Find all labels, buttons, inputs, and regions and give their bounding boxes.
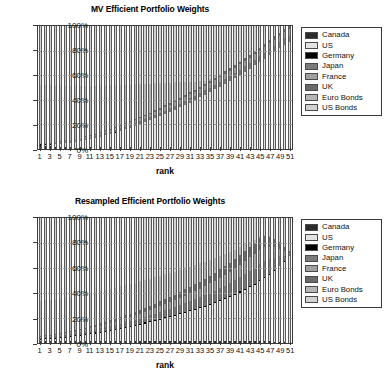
stacked-bar[interactable] bbox=[248, 26, 251, 149]
stacked-bar[interactable] bbox=[228, 218, 231, 343]
stacked-bar[interactable] bbox=[233, 218, 236, 343]
stacked-bar[interactable] bbox=[64, 26, 67, 149]
stacked-bar[interactable] bbox=[268, 218, 271, 343]
stacked-bar[interactable] bbox=[134, 218, 137, 343]
stacked-bar[interactable] bbox=[109, 218, 112, 343]
stacked-bar[interactable] bbox=[183, 26, 186, 149]
stacked-bar[interactable] bbox=[263, 26, 266, 149]
stacked-bar[interactable] bbox=[39, 218, 42, 343]
legend-item-france[interactable]: France bbox=[305, 264, 377, 274]
stacked-bar[interactable] bbox=[54, 218, 57, 343]
stacked-bar[interactable] bbox=[238, 218, 241, 343]
stacked-bar[interactable] bbox=[288, 218, 291, 343]
stacked-bar[interactable] bbox=[278, 26, 281, 149]
stacked-bar[interactable] bbox=[138, 218, 141, 343]
stacked-bar[interactable] bbox=[74, 26, 77, 149]
stacked-bar[interactable] bbox=[213, 218, 216, 343]
stacked-bar[interactable] bbox=[44, 218, 47, 343]
legend-item-uk[interactable]: UK bbox=[305, 274, 377, 284]
legend-item-france[interactable]: France bbox=[305, 72, 377, 82]
stacked-bar[interactable] bbox=[208, 218, 211, 343]
legend-item-us[interactable]: US bbox=[305, 40, 377, 50]
stacked-bar[interactable] bbox=[193, 218, 196, 343]
stacked-bar[interactable] bbox=[233, 26, 236, 149]
stacked-bar[interactable] bbox=[283, 218, 286, 343]
stacked-bar[interactable] bbox=[153, 26, 156, 149]
legend-item-japan[interactable]: Japan bbox=[305, 61, 377, 71]
stacked-bar[interactable] bbox=[138, 26, 141, 149]
stacked-bar[interactable] bbox=[94, 218, 97, 343]
stacked-bar[interactable] bbox=[243, 218, 246, 343]
stacked-bar[interactable] bbox=[248, 218, 251, 343]
stacked-bar[interactable] bbox=[84, 218, 87, 343]
stacked-bar[interactable] bbox=[198, 218, 201, 343]
stacked-bar[interactable] bbox=[148, 218, 151, 343]
stacked-bar[interactable] bbox=[39, 26, 42, 149]
stacked-bar[interactable] bbox=[223, 218, 226, 343]
stacked-bar[interactable] bbox=[69, 218, 72, 343]
legend-item-canada[interactable]: Canada bbox=[305, 222, 377, 232]
stacked-bar[interactable] bbox=[119, 218, 122, 343]
stacked-bar[interactable] bbox=[69, 26, 72, 149]
stacked-bar[interactable] bbox=[158, 26, 161, 149]
stacked-bar[interactable] bbox=[54, 26, 57, 149]
stacked-bar[interactable] bbox=[168, 218, 171, 343]
stacked-bar[interactable] bbox=[258, 218, 261, 343]
stacked-bar[interactable] bbox=[79, 218, 82, 343]
stacked-bar[interactable] bbox=[218, 218, 221, 343]
legend-item-euro-bonds[interactable]: Euro Bonds bbox=[305, 92, 377, 102]
stacked-bar[interactable] bbox=[158, 218, 161, 343]
stacked-bar[interactable] bbox=[253, 26, 256, 149]
stacked-bar[interactable] bbox=[213, 26, 216, 149]
stacked-bar[interactable] bbox=[79, 26, 82, 149]
stacked-bar[interactable] bbox=[283, 26, 286, 149]
stacked-bar[interactable] bbox=[273, 218, 276, 343]
stacked-bar[interactable] bbox=[99, 26, 102, 149]
stacked-bar[interactable] bbox=[258, 26, 261, 149]
stacked-bar[interactable] bbox=[114, 26, 117, 149]
stacked-bar[interactable] bbox=[193, 26, 196, 149]
stacked-bar[interactable] bbox=[49, 218, 52, 343]
stacked-bar[interactable] bbox=[89, 218, 92, 343]
stacked-bar[interactable] bbox=[49, 26, 52, 149]
stacked-bar[interactable] bbox=[203, 218, 206, 343]
stacked-bar[interactable] bbox=[163, 218, 166, 343]
stacked-bar[interactable] bbox=[268, 26, 271, 149]
stacked-bar[interactable] bbox=[99, 218, 102, 343]
stacked-bar[interactable] bbox=[263, 218, 266, 343]
stacked-bar[interactable] bbox=[198, 26, 201, 149]
legend-item-japan[interactable]: Japan bbox=[305, 253, 377, 263]
stacked-bar[interactable] bbox=[148, 26, 151, 149]
stacked-bar[interactable] bbox=[44, 26, 47, 149]
stacked-bar[interactable] bbox=[124, 218, 127, 343]
stacked-bar[interactable] bbox=[89, 26, 92, 149]
stacked-bar[interactable] bbox=[188, 26, 191, 149]
legend-item-us-bonds[interactable]: US Bonds bbox=[305, 295, 377, 305]
stacked-bar[interactable] bbox=[59, 218, 62, 343]
legend-item-us-bonds[interactable]: US Bonds bbox=[305, 103, 377, 113]
stacked-bar[interactable] bbox=[278, 218, 281, 343]
stacked-bar[interactable] bbox=[129, 26, 132, 149]
stacked-bar[interactable] bbox=[124, 26, 127, 149]
stacked-bar[interactable] bbox=[273, 26, 276, 149]
stacked-bar[interactable] bbox=[74, 218, 77, 343]
stacked-bar[interactable] bbox=[288, 26, 291, 149]
stacked-bar[interactable] bbox=[134, 26, 137, 149]
legend-item-euro-bonds[interactable]: Euro Bonds bbox=[305, 284, 377, 294]
stacked-bar[interactable] bbox=[228, 26, 231, 149]
stacked-bar[interactable] bbox=[168, 26, 171, 149]
stacked-bar[interactable] bbox=[173, 218, 176, 343]
stacked-bar[interactable] bbox=[119, 26, 122, 149]
stacked-bar[interactable] bbox=[173, 26, 176, 149]
stacked-bar[interactable] bbox=[238, 26, 241, 149]
stacked-bar[interactable] bbox=[208, 26, 211, 149]
stacked-bar[interactable] bbox=[143, 26, 146, 149]
stacked-bar[interactable] bbox=[253, 218, 256, 343]
legend-item-us[interactable]: US bbox=[305, 232, 377, 242]
stacked-bar[interactable] bbox=[104, 218, 107, 343]
legend-item-germany[interactable]: Germany bbox=[305, 243, 377, 253]
stacked-bar[interactable] bbox=[64, 218, 67, 343]
stacked-bar[interactable] bbox=[178, 218, 181, 343]
stacked-bar[interactable] bbox=[188, 218, 191, 343]
stacked-bar[interactable] bbox=[143, 218, 146, 343]
